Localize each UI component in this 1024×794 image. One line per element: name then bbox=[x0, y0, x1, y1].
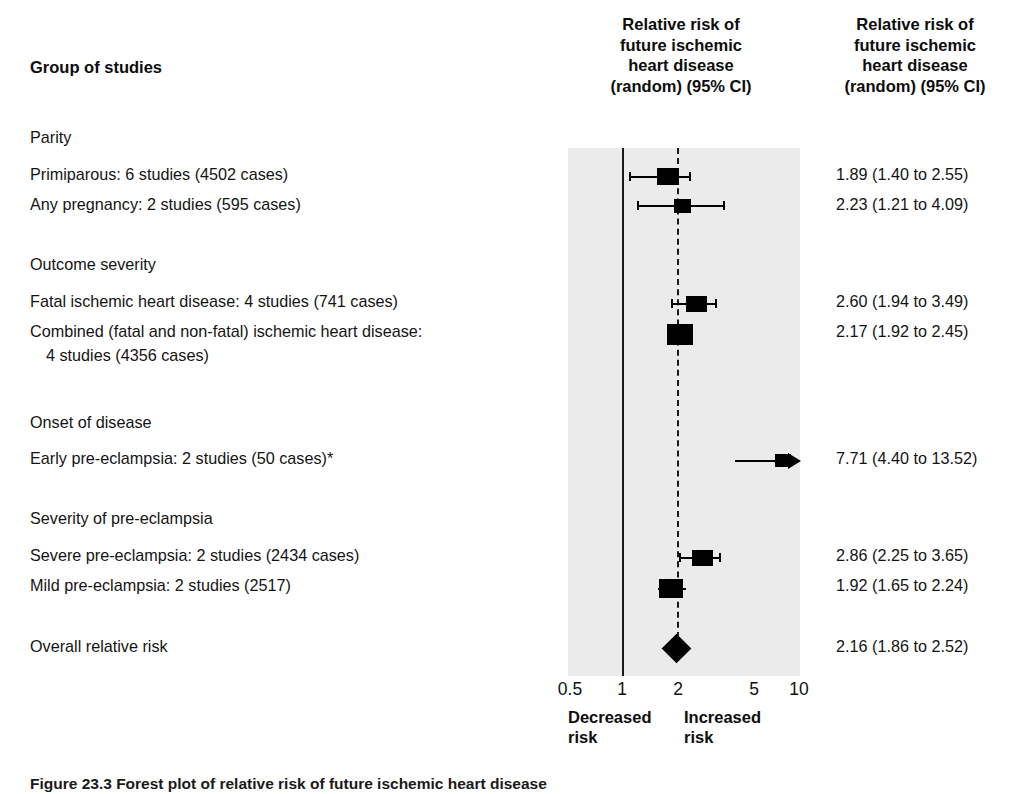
effect-box-fatal-ihd bbox=[686, 296, 707, 312]
row-label-any-pregnancy: Any pregnancy: 2 studies (595 cases) bbox=[30, 195, 301, 214]
effect-box-primiparous bbox=[657, 168, 679, 185]
ci-cap-low-severe-pre-eclampsia bbox=[679, 553, 681, 562]
row-label-overall-relative-risk: Overall relative risk bbox=[30, 637, 168, 656]
ci-cap-low-fatal-ihd bbox=[671, 299, 673, 308]
group-heading-outcome-severity: Outcome severity bbox=[30, 255, 156, 274]
row-value-fatal-ihd: 2.60 (1.94 to 3.49) bbox=[836, 292, 968, 311]
axis-caption-increased-risk: Increased risk bbox=[684, 707, 761, 747]
row-label-mild-pre-eclampsia: Mild pre-eclampsia: 2 studies (2517) bbox=[30, 576, 291, 595]
null-effect-line bbox=[622, 148, 624, 676]
row-value-primiparous: 1.89 (1.40 to 2.55) bbox=[836, 165, 968, 184]
axis-caption-decreased-risk: Decreased risk bbox=[568, 707, 651, 747]
x-tick-5: 5 bbox=[749, 679, 759, 700]
row-label-combined-ihd-cont: 4 studies (4356 cases) bbox=[46, 346, 209, 365]
x-tick-2: 2 bbox=[673, 679, 683, 700]
ci-arrow-head-early-pre-eclampsia bbox=[788, 453, 801, 469]
x-tick-0-5: 0.5 bbox=[558, 679, 582, 700]
column-header-group-of-studies: Group of studies bbox=[30, 58, 162, 77]
group-heading-parity: Parity bbox=[30, 128, 71, 147]
x-tick-1: 1 bbox=[617, 679, 627, 700]
ci-cap-high-any-pregnancy bbox=[723, 201, 725, 210]
column-header-right: Relative risk of future ischemic heart d… bbox=[806, 14, 1024, 96]
plot-area bbox=[568, 148, 800, 676]
row-label-early-pre-eclampsia: Early pre-eclampsia: 2 studies (50 cases… bbox=[30, 449, 333, 468]
row-value-any-pregnancy: 2.23 (1.21 to 4.09) bbox=[836, 195, 968, 214]
row-value-combined-ihd: 2.17 (1.92 to 2.45) bbox=[836, 322, 968, 341]
row-value-early-pre-eclampsia: 7.71 (4.40 to 13.52) bbox=[836, 449, 977, 468]
row-value-severe-pre-eclampsia: 2.86 (2.25 to 3.65) bbox=[836, 546, 968, 565]
row-value-overall-relative-risk: 2.16 (1.86 to 2.52) bbox=[836, 637, 968, 656]
group-heading-severity-of-pre-eclampsia: Severity of pre-eclampsia bbox=[30, 509, 213, 528]
effect-box-severe-pre-eclampsia bbox=[692, 550, 713, 566]
ci-cap-low-primiparous bbox=[629, 172, 631, 181]
effect-box-any-pregnancy bbox=[674, 199, 691, 213]
row-label-primiparous: Primiparous: 6 studies (4502 cases) bbox=[30, 165, 288, 184]
group-heading-onset-of-disease: Onset of disease bbox=[30, 413, 151, 432]
pooled-estimate-dashed-line bbox=[677, 148, 679, 648]
x-tick-10: 10 bbox=[789, 679, 808, 700]
ci-cap-low-any-pregnancy bbox=[637, 201, 639, 210]
column-header-middle: Relative risk of future ischemic heart d… bbox=[556, 14, 806, 96]
effect-box-mild-pre-eclampsia bbox=[659, 579, 683, 598]
row-label-severe-pre-eclampsia: Severe pre-eclampsia: 2 studies (2434 ca… bbox=[30, 546, 359, 565]
row-value-mild-pre-eclampsia: 1.92 (1.65 to 2.24) bbox=[836, 576, 968, 595]
row-label-combined-ihd: Combined (fatal and non-fatal) ischemic … bbox=[30, 322, 422, 341]
ci-cap-high-primiparous bbox=[689, 172, 691, 181]
ci-cap-high-fatal-ihd bbox=[715, 299, 717, 308]
figure-caption: Figure 23.3 Forest plot of relative risk… bbox=[30, 775, 547, 794]
row-label-fatal-ihd: Fatal ischemic heart disease: 4 studies … bbox=[30, 292, 398, 311]
ci-cap-high-severe-pre-eclampsia bbox=[719, 553, 721, 562]
effect-box-combined-ihd bbox=[667, 324, 693, 345]
forest-plot-figure: Relative risk of future ischemic heart d… bbox=[0, 0, 1024, 794]
